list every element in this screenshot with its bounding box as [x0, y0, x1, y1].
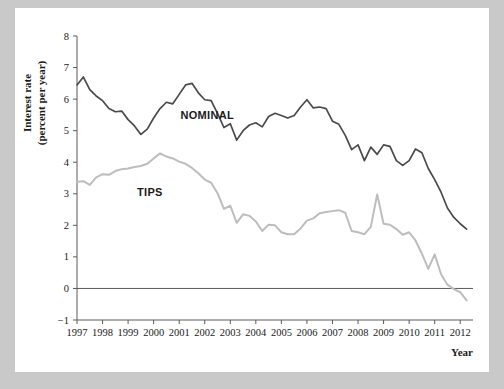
y-tick-label: 5 [64, 125, 69, 136]
x-tick-label: 1998 [92, 327, 113, 338]
y-tick-label: 0 [64, 283, 69, 294]
x-tick-label: 2005 [271, 327, 292, 338]
x-tick-label: 2001 [169, 327, 190, 338]
series-line-tips [77, 153, 467, 300]
x-tick-label: 2002 [194, 327, 215, 338]
x-axis-ticks: 1997199819992000200120022003200420052006… [67, 320, 471, 338]
x-tick-label: 2008 [348, 327, 369, 338]
y-tick-label: −1 [58, 315, 69, 326]
x-tick-label: 2007 [322, 327, 343, 338]
y-axis-title-line2: (percent per year) [35, 60, 48, 145]
series-label-tips: TIPS [137, 186, 163, 198]
x-tick-label: 1999 [118, 327, 139, 338]
x-tick-label: 2012 [450, 327, 471, 338]
y-axis-title-line1: Interest rate [21, 74, 33, 132]
x-tick-label: 2010 [399, 327, 420, 338]
series-line-nominal [77, 77, 467, 229]
y-axis-title: Interest rate (percent per year) [21, 60, 48, 145]
x-tick-label: 2009 [373, 327, 394, 338]
x-tick-label: 2011 [424, 327, 445, 338]
y-tick-label: 6 [64, 94, 69, 105]
x-tick-label: 2006 [296, 327, 317, 338]
y-tick-label: 8 [64, 31, 69, 42]
chart-card: Interest rate (percent per year) −101234… [15, 8, 489, 372]
x-tick-label: 2000 [143, 327, 164, 338]
x-tick-label: 2003 [220, 327, 241, 338]
y-tick-label: 7 [64, 62, 69, 73]
interest-rate-line-chart: Interest rate (percent per year) −101234… [15, 8, 489, 372]
y-tick-label: 2 [64, 220, 69, 231]
series-label-nominal: NOMINAL [180, 109, 233, 121]
x-tick-label: 2004 [245, 327, 267, 338]
y-tick-label: 3 [64, 188, 69, 199]
x-tick-label: 1997 [67, 327, 88, 338]
y-axis-ticks: −1012345678 [58, 31, 77, 326]
y-tick-label: 4 [64, 157, 70, 168]
y-tick-label: 1 [64, 251, 69, 262]
figure-root: Interest rate (percent per year) −101234… [0, 0, 504, 389]
x-axis-title: Year [451, 346, 473, 358]
